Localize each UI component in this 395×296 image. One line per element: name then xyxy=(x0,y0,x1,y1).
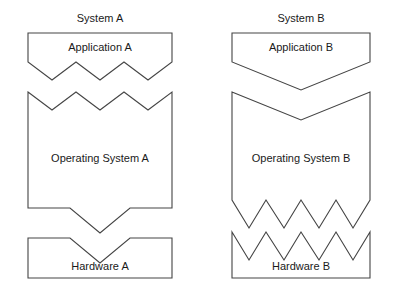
diagram-canvas: System A Application A Operating System … xyxy=(0,0,395,296)
system-a-operating-system-label: Operating System A xyxy=(51,152,149,164)
system-b-hardware-label: Hardware B xyxy=(272,260,330,272)
system-a-hardware-label: Hardware A xyxy=(71,260,129,272)
system-a-title: System A xyxy=(77,12,124,24)
system-a-hardware-shape xyxy=(28,238,172,278)
system-b-operating-system-label: Operating System B xyxy=(252,152,350,164)
system-b-title: System B xyxy=(277,12,324,24)
system-b-application-label: Application B xyxy=(269,41,333,53)
system-a-application-label: Application A xyxy=(68,41,132,53)
